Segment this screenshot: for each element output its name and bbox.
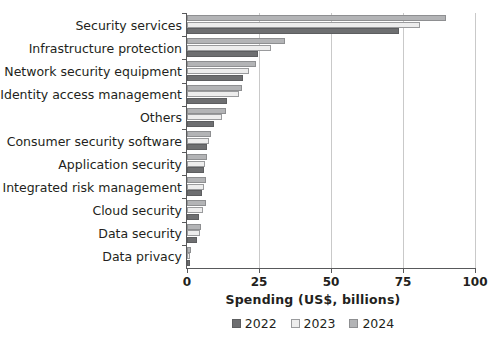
bar-2022 [187, 98, 227, 104]
category-label: Integrated risk management [2, 180, 182, 195]
x-tick-label: 50 [323, 275, 340, 289]
x-tick-label: 25 [251, 275, 268, 289]
y-tick [182, 198, 187, 199]
legend-swatch-icon [349, 319, 358, 328]
y-axis-line [186, 13, 187, 269]
bar-2022 [187, 237, 197, 243]
chart-legend: 202220232024 [0, 316, 500, 331]
bar-2023 [187, 207, 203, 213]
bar-2023 [187, 138, 209, 144]
bar-2024 [187, 15, 446, 21]
category-label: Data privacy [102, 249, 182, 264]
legend-label: 2024 [362, 316, 394, 331]
bar-2024 [187, 200, 206, 206]
plot-area [187, 13, 475, 268]
category-label: Security services [75, 18, 182, 33]
bar-2022 [187, 214, 199, 220]
x-axis-title: Spending (US$, billions) [0, 292, 500, 307]
x-tick [331, 268, 332, 273]
y-tick [182, 13, 187, 14]
y-tick [182, 36, 187, 37]
y-tick [182, 152, 187, 153]
category-label: Network security equipment [4, 64, 182, 79]
bar-2023 [187, 230, 200, 236]
legend-item-2024[interactable]: 2024 [349, 316, 394, 331]
x-tick-label: 75 [395, 275, 412, 289]
category-label: Identity access management [0, 87, 182, 102]
x-axis-title-text: Spending (US$, billions) [100, 292, 401, 307]
bar-2022 [187, 260, 190, 266]
legend-label: 2023 [304, 316, 336, 331]
bar-2022 [187, 28, 399, 34]
bar-chart: 0255075100 Security servicesInfrastructu… [0, 0, 500, 344]
y-tick [182, 59, 187, 60]
category-label: Application security [58, 157, 182, 172]
category-label: Data security [98, 226, 182, 241]
bar-2024 [187, 154, 207, 160]
x-tick [187, 268, 188, 273]
y-tick [182, 175, 187, 176]
x-tick [475, 268, 476, 273]
bar-2023 [187, 253, 190, 259]
bar-2023 [187, 45, 271, 51]
bar-2024 [187, 247, 191, 253]
x-tick [259, 268, 260, 273]
bar-2024 [187, 224, 201, 230]
bar-2022 [187, 144, 207, 150]
y-tick [182, 222, 187, 223]
bar-2023 [187, 91, 239, 97]
y-tick [182, 83, 187, 84]
y-tick [182, 129, 187, 130]
bar-2022 [187, 121, 214, 127]
bar-2024 [187, 108, 226, 114]
legend-item-2022[interactable]: 2022 [232, 316, 277, 331]
gridline [259, 13, 260, 268]
category-label: Consumer security software [7, 134, 182, 149]
bar-2023 [187, 22, 420, 28]
gridline [331, 13, 332, 268]
bar-2023 [187, 68, 249, 74]
x-tick [403, 268, 404, 273]
bar-2024 [187, 85, 242, 91]
bar-2022 [187, 190, 202, 196]
category-label: Cloud security [92, 203, 182, 218]
bar-2023 [187, 114, 222, 120]
bar-2023 [187, 184, 204, 190]
category-label: Others [140, 110, 182, 125]
bar-2024 [187, 177, 206, 183]
bar-2024 [187, 61, 256, 67]
bar-2022 [187, 51, 258, 57]
legend-swatch-icon [291, 319, 300, 328]
y-tick [182, 245, 187, 246]
bar-2024 [187, 38, 285, 44]
legend-item-2023[interactable]: 2023 [291, 316, 336, 331]
gridline [403, 13, 404, 268]
legend-label: 2022 [245, 316, 277, 331]
bar-2024 [187, 131, 211, 137]
bar-2022 [187, 167, 204, 173]
gridline [475, 13, 476, 268]
bar-2023 [187, 161, 205, 167]
y-tick [182, 106, 187, 107]
x-tick-label: 100 [462, 275, 487, 289]
legend-swatch-icon [232, 319, 241, 328]
category-label: Infrastructure protection [29, 41, 182, 56]
x-tick-label: 0 [183, 275, 191, 289]
bar-2022 [187, 75, 243, 81]
